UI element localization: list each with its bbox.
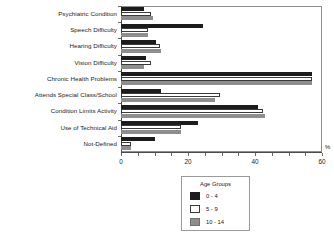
x-axis-minor-tick: [222, 153, 223, 156]
x-axis-minor-tick: [205, 153, 206, 156]
legend-swatch-icon: [190, 192, 200, 200]
bar: [121, 93, 220, 97]
bar: [121, 125, 181, 129]
x-axis-unit-label: %: [325, 144, 330, 150]
x-axis-major-tick: [322, 153, 323, 156]
chart-rows: Psychiatric ConditionSpeech DifficultyHe…: [121, 6, 322, 152]
bar: [121, 109, 263, 113]
bar: [121, 77, 312, 81]
x-axis-minor-tick: [155, 153, 156, 156]
bar: [121, 105, 258, 109]
bar: [121, 137, 155, 141]
bar: [121, 40, 156, 44]
bar: [121, 16, 153, 20]
legend: Age Groups 0 - 45 - 910 - 14: [181, 176, 250, 231]
bar: [121, 28, 148, 32]
chart-row: Vision Difficulty: [121, 55, 322, 71]
x-axis-minor-tick: [305, 153, 306, 156]
x-axis-tick-label: 20: [184, 158, 191, 165]
bar: [121, 98, 215, 102]
x-axis: 0204060: [121, 152, 322, 153]
chart-row: Speech Difficulty: [121, 22, 322, 38]
bar: [121, 7, 144, 11]
bar: [121, 114, 265, 118]
legend-swatch-icon: [190, 218, 200, 226]
legend-title: Age Groups: [182, 181, 249, 187]
bar: [121, 121, 198, 125]
x-axis-minor-tick: [171, 153, 172, 156]
legend-item-label: 0 - 4: [206, 192, 218, 200]
category-label: Chronic Health Problems: [47, 71, 121, 87]
bar: [121, 12, 151, 16]
x-axis-minor-tick: [289, 153, 290, 156]
bar: [121, 61, 151, 65]
bar: [121, 24, 203, 28]
bar: [121, 142, 131, 146]
bar: [121, 33, 148, 37]
chart-row: Not-Defined: [121, 136, 322, 152]
legend-item-label: 5 - 9: [206, 205, 218, 213]
x-axis-major-tick: [255, 153, 256, 156]
category-label: Vision Difficulty: [74, 55, 121, 71]
bar: [121, 130, 181, 134]
bar: [121, 49, 161, 53]
x-axis-tick-label: 60: [318, 158, 325, 165]
legend-item-label: 10 - 14: [206, 218, 224, 226]
chart-row: Use of Technical Aid: [121, 120, 322, 136]
category-label: Attends Special Class/School: [35, 87, 121, 103]
bar: [121, 146, 131, 150]
bar-chart: Psychiatric ConditionSpeech DifficultyHe…: [0, 0, 334, 239]
x-axis-tick-label: 40: [251, 158, 258, 165]
x-axis-minor-tick: [138, 153, 139, 156]
x-axis-major-tick: [121, 153, 122, 156]
bar: [121, 81, 312, 85]
chart-row: Hearing Difficulty: [121, 38, 322, 54]
category-label: Use of Technical Aid: [60, 120, 121, 136]
x-axis-minor-tick: [272, 153, 273, 156]
bar: [121, 89, 161, 93]
legend-swatch-icon: [190, 205, 200, 213]
chart-row: Chronic Health Problems: [121, 71, 322, 87]
bar: [121, 72, 312, 76]
bar: [121, 44, 160, 48]
category-label: Speech Difficulty: [70, 22, 121, 38]
category-label: Not-Defined: [83, 136, 121, 152]
x-axis-major-tick: [188, 153, 189, 156]
chart-row: Psychiatric Condition: [121, 6, 322, 22]
bar: [121, 65, 144, 69]
x-axis-minor-tick: [238, 153, 239, 156]
x-axis-tick-label: 0: [119, 158, 123, 165]
chart-row: Attends Special Class/School: [121, 87, 322, 103]
chart-row: Condition Limits Activity: [121, 103, 322, 119]
bar: [121, 56, 146, 60]
category-label: Condition Limits Activity: [51, 103, 121, 119]
category-label: Hearing Difficulty: [69, 38, 121, 54]
category-label: Psychiatric Condition: [58, 6, 121, 22]
